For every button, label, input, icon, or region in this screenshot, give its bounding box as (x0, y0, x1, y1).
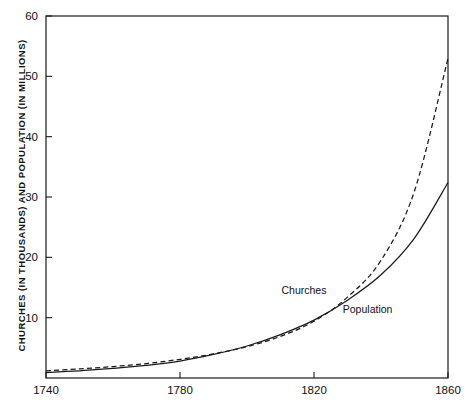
y-axis-ticks (46, 16, 52, 318)
y-tick-label: 60 (8, 10, 38, 22)
plot-frame (46, 16, 448, 378)
y-tick-label: 10 (8, 312, 38, 324)
y-tick-label: 40 (8, 131, 38, 143)
series-line-churches (46, 58, 448, 371)
y-tick-label: 20 (8, 251, 38, 263)
plot-area (0, 0, 468, 407)
x-axis-ticks (46, 372, 448, 378)
series-annotation-churches: Churches (281, 284, 326, 296)
x-tick-label: 1780 (167, 384, 193, 396)
series-line-population (46, 183, 448, 373)
y-tick-label: 50 (8, 70, 38, 82)
x-tick-label: 1820 (301, 384, 327, 396)
y-tick-label: 30 (8, 191, 38, 203)
x-tick-label: 1860 (435, 384, 461, 396)
series-annotation-population: Population (343, 303, 393, 315)
chart-figure: CHURCHES (IN THOUSANDS) AND POPULATION (… (0, 0, 468, 407)
x-tick-label: 1740 (33, 384, 59, 396)
